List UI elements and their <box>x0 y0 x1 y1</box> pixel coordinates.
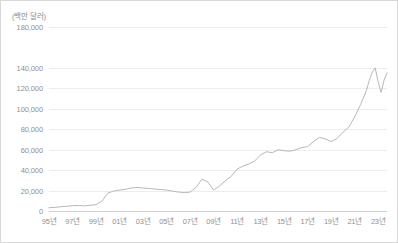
x-axis-tick-label: 97년 <box>65 215 79 226</box>
x-axis-tick-label: 19년 <box>324 215 338 226</box>
chart-container: (백만 달러) 180,000140,000120,000100,00080,0… <box>0 0 398 243</box>
series-polyline <box>49 68 387 208</box>
x-axis-tick-label: 01년 <box>112 215 126 226</box>
y-axis-tick-label: 80,000 <box>0 125 43 134</box>
x-axis-tick-label: 13년 <box>253 215 267 226</box>
x-axis-tick-label: 05년 <box>159 215 173 226</box>
y-axis-tick-label: 180,000 <box>0 23 43 32</box>
line-series <box>49 27 387 211</box>
x-axis-tick-label: 07년 <box>183 215 197 226</box>
x-axis-tick-label: 23년 <box>371 215 385 226</box>
y-axis-tick-label: 120,000 <box>0 84 43 93</box>
x-axis-tick-label: 99년 <box>89 215 103 226</box>
x-axis-tick-label: 09년 <box>206 215 220 226</box>
y-axis-tick-label: 100,000 <box>0 104 43 113</box>
plot-area <box>49 27 387 211</box>
x-axis-tick-label: 95년 <box>42 215 56 226</box>
x-axis-tick-label: 03년 <box>136 215 150 226</box>
x-axis-line <box>49 211 387 212</box>
y-axis-unit-label: (백만 달러) <box>12 10 46 21</box>
y-axis-tick-label: 0 <box>0 207 43 216</box>
x-axis-tick-label: 15년 <box>277 215 291 226</box>
x-axis-tick-label: 17년 <box>300 215 314 226</box>
y-axis-tick-label: 60,000 <box>0 145 43 154</box>
x-axis-tick-label: 21년 <box>347 215 361 226</box>
y-axis-tick-label: 40,000 <box>0 166 43 175</box>
x-axis-tick-label: 11년 <box>230 215 244 226</box>
y-axis-tick-label: 140,000 <box>0 63 43 72</box>
y-axis-tick-label: 20,000 <box>0 186 43 195</box>
